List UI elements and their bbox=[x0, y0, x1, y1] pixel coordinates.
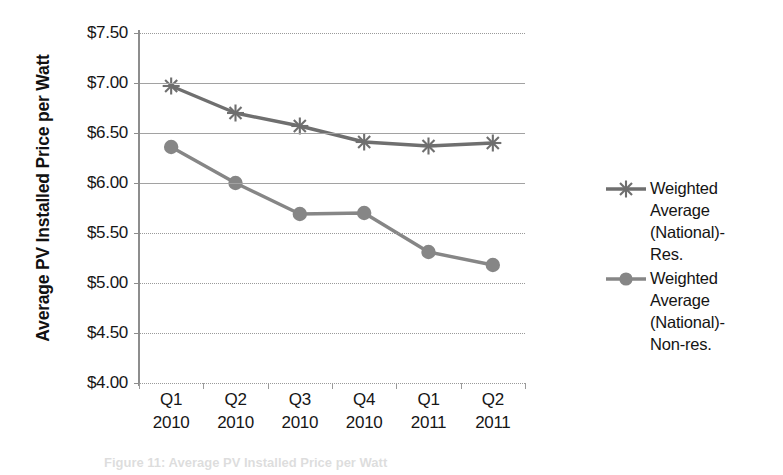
y-axis-tick-mark bbox=[134, 283, 140, 284]
gridline bbox=[139, 333, 525, 334]
chart-legend: Weighted Average (National)- Res.Weighte… bbox=[604, 178, 779, 358]
y-axis-tick-mark bbox=[134, 233, 140, 234]
x-axis-tick-label-line: Q2 bbox=[475, 389, 510, 412]
data-point-marker-asterisk bbox=[227, 105, 244, 122]
data-point-marker-asterisk bbox=[484, 135, 501, 152]
figure-caption: Figure 11: Average PV Installed Price pe… bbox=[104, 455, 664, 470]
x-axis-tick-label-line: Q4 bbox=[346, 389, 383, 412]
y-axis-tick-label: $5.50 bbox=[87, 223, 128, 243]
legend-label: Weighted Average (National)- Non-res. bbox=[650, 268, 725, 356]
x-axis-tick-label-line: 2010 bbox=[282, 412, 319, 435]
x-axis-tick-labels: Q12010Q22010Q32010Q42010Q12011Q22011 bbox=[139, 389, 525, 449]
gridline bbox=[139, 283, 525, 284]
data-point-marker-circle bbox=[486, 258, 500, 272]
y-axis-tick-mark bbox=[134, 83, 140, 84]
y-axis-tick-label: $4.50 bbox=[87, 323, 128, 343]
y-axis-tick-label: $6.50 bbox=[87, 123, 128, 143]
y-axis-title: Average PV Installed Price per Watt bbox=[32, 33, 55, 363]
series-line bbox=[171, 147, 493, 265]
gridline bbox=[139, 33, 525, 34]
y-axis-tick-label: $7.00 bbox=[87, 73, 128, 93]
data-point-marker-asterisk bbox=[163, 78, 180, 95]
series-res bbox=[163, 78, 502, 155]
x-axis-tick-label-line: 2011 bbox=[411, 412, 446, 435]
data-point-marker-asterisk bbox=[291, 118, 308, 135]
data-point-marker-circle bbox=[293, 207, 307, 221]
x-axis-tick-label: Q12011 bbox=[411, 389, 446, 435]
y-axis-tick-mark bbox=[134, 183, 140, 184]
plot-area bbox=[139, 33, 525, 383]
gridline bbox=[139, 183, 525, 184]
gridline bbox=[139, 233, 525, 234]
data-point-marker-asterisk bbox=[618, 181, 635, 198]
legend-entry: Weighted Average (National)- Non-res. bbox=[604, 268, 779, 356]
legend-key bbox=[604, 268, 648, 290]
y-axis-tick-label: $7.50 bbox=[87, 23, 128, 43]
x-axis-tick-label-line: 2010 bbox=[217, 412, 254, 435]
y-axis-tick-mark bbox=[134, 133, 140, 134]
data-point-marker-circle bbox=[164, 140, 178, 154]
data-point-marker-circle bbox=[619, 272, 632, 285]
series-layer bbox=[139, 33, 525, 383]
y-axis-tick-label: $6.00 bbox=[87, 173, 128, 193]
chart-figure: Average PV Installed Price per Watt $7.5… bbox=[0, 0, 783, 475]
x-axis-tick-label: Q32010 bbox=[282, 389, 319, 435]
legend-label: Weighted Average (National)- Res. bbox=[650, 178, 725, 266]
data-point-marker-asterisk bbox=[356, 134, 373, 151]
x-axis-tick-label-line: 2010 bbox=[153, 412, 190, 435]
x-axis-tick-label-line: 2010 bbox=[346, 412, 383, 435]
series-line bbox=[171, 86, 493, 146]
y-axis-tick-labels: $7.50$7.00$6.50$6.00$5.50$5.00$4.50$4.00 bbox=[58, 0, 134, 475]
data-point-marker-circle bbox=[421, 245, 435, 259]
x-axis-tick-label: Q22011 bbox=[475, 389, 510, 435]
legend-entry: Weighted Average (National)- Res. bbox=[604, 178, 779, 266]
x-axis-tick-label-line: 2011 bbox=[475, 412, 510, 435]
y-axis-tick-mark bbox=[134, 33, 140, 34]
x-axis-tick-label-line: Q3 bbox=[282, 389, 319, 412]
x-axis-tick-mark bbox=[525, 383, 526, 389]
x-axis-tick-label-line: Q2 bbox=[217, 389, 254, 412]
y-axis-tick-mark bbox=[134, 333, 140, 334]
gridline bbox=[139, 133, 525, 134]
data-point-marker-circle bbox=[357, 206, 371, 220]
x-axis-tick-label-line: Q1 bbox=[411, 389, 446, 412]
x-axis-tick-label: Q12010 bbox=[153, 389, 190, 435]
x-axis-tick-label: Q22010 bbox=[217, 389, 254, 435]
gridline bbox=[139, 83, 525, 84]
x-axis-tick-label-line: Q1 bbox=[153, 389, 190, 412]
y-axis-tick-label: $4.00 bbox=[87, 373, 128, 393]
y-axis-tick-label: $5.00 bbox=[87, 273, 128, 293]
legend-key bbox=[604, 178, 648, 200]
series-nonres bbox=[164, 140, 500, 272]
x-axis-tick-label: Q42010 bbox=[346, 389, 383, 435]
data-point-marker-asterisk bbox=[420, 138, 437, 155]
